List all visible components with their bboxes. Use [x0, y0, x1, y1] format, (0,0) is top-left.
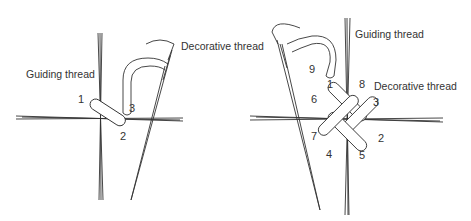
left-vertical-guiding-thread — [98, 33, 103, 200]
left-step-3: 3 — [129, 103, 135, 114]
right-step-4: 4 — [326, 149, 332, 160]
left-step-2: 2 — [120, 131, 126, 142]
right-step-6: 6 — [311, 94, 317, 105]
left-decorative-thread-label: Decorative thread — [181, 41, 264, 52]
right-guiding-thread-label: Guiding thread — [355, 29, 424, 40]
right-step-8: 8 — [359, 79, 365, 90]
right-vertical-guiding-thread — [345, 18, 350, 215]
left-decorative-thread-inner — [131, 66, 165, 113]
left-guiding-thread-label: Guiding thread — [26, 69, 95, 80]
left-step-1: 1 — [78, 94, 84, 105]
right-step-5: 5 — [359, 150, 365, 161]
right-step-3: 3 — [373, 97, 379, 108]
right-step-9: 9 — [309, 64, 315, 75]
right-decorative-thread-label: Decorative thread — [374, 81, 457, 92]
left-stitch-1-2 — [88, 97, 128, 128]
right-step-1: 1 — [327, 79, 333, 90]
right-step-2: 2 — [378, 133, 384, 144]
left-horizontal-guiding-thread — [16, 116, 183, 121]
right-step-7: 7 — [311, 131, 317, 142]
